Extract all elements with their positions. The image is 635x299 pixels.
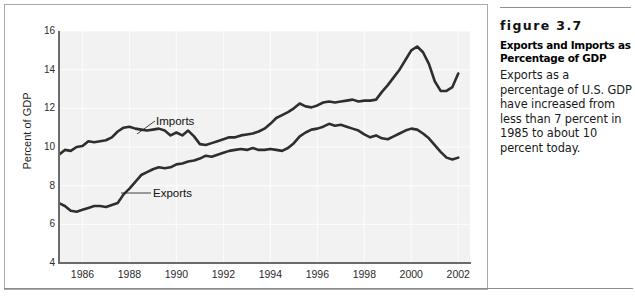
- chart: 46810121416 1986198819901992199419961998…: [5, 5, 489, 291]
- x-tick-1994: 1994: [247, 268, 293, 280]
- x-tick-2000: 2000: [388, 268, 434, 280]
- x-tick-1990: 1990: [153, 268, 199, 280]
- page-bottom-rule: [4, 288, 633, 289]
- x-tick-1992: 1992: [200, 268, 246, 280]
- y-tick-6: 6: [27, 219, 55, 229]
- caption-top-rule: [500, 7, 631, 8]
- series-label-exports: Exports: [153, 187, 192, 199]
- series-line-exports: [59, 124, 458, 212]
- figure-caption-panel: figure 3.7 Exports and Imports as Percen…: [500, 4, 631, 286]
- y-tick-16: 16: [27, 26, 55, 36]
- y-axis-title: Percent of GDP: [21, 71, 33, 191]
- x-tick-1996: 1996: [294, 268, 340, 280]
- figure-caption-title: Exports and Imports as Percentage of GDP: [500, 39, 633, 64]
- y-axis-line: [58, 31, 60, 264]
- plot-svg: [59, 31, 470, 263]
- x-tick-1998: 1998: [341, 268, 387, 280]
- figure-number-label: figure 3.7: [500, 18, 583, 33]
- x-tick-1988: 1988: [106, 268, 152, 280]
- series-line-imports: [59, 46, 458, 154]
- figure-border-box: 46810121416 1986198819901992199419961998…: [4, 4, 488, 290]
- y-tick-4: 4: [27, 258, 55, 268]
- series-curves: [59, 46, 458, 211]
- gridlines: [59, 31, 470, 263]
- x-axis-line: [58, 262, 471, 264]
- plot-area: [59, 31, 470, 263]
- figure-page: 46810121416 1986198819901992199419961998…: [0, 0, 635, 299]
- x-tick-1986: 1986: [59, 268, 105, 280]
- figure-caption-body: Exports as a percentage of U.S. GDP have…: [500, 68, 634, 156]
- series-label-imports: Imports: [156, 115, 194, 127]
- x-tick-2002: 2002: [435, 268, 481, 280]
